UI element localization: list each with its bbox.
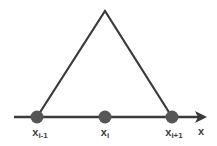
x-axis-label: x xyxy=(198,126,204,137)
figure-canvas xyxy=(0,0,217,146)
node-label-left: xi-1 xyxy=(32,127,47,138)
node-label-right: xi+1 xyxy=(165,127,182,138)
hat-function-figure: xi-1 xi xi+1 x xyxy=(0,0,217,146)
node-marker-left xyxy=(31,111,44,124)
node-marker-center xyxy=(99,111,112,124)
hat-function-path xyxy=(37,11,172,117)
node-label-left-subscript: i-1 xyxy=(38,131,47,140)
node-label-center: xi xyxy=(101,127,109,138)
hat-function-polyline xyxy=(37,11,172,117)
node-marker-right xyxy=(166,111,179,124)
node-label-right-subscript: i+1 xyxy=(171,131,182,140)
